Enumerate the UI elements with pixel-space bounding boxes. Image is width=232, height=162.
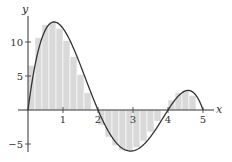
y-axis-label: y — [21, 3, 29, 16]
x-axis-label: x — [216, 103, 223, 116]
riemann-bar — [77, 75, 84, 110]
riemann-bar — [105, 110, 112, 137]
riemann-bar — [70, 57, 77, 110]
x-tick-label: 3 — [130, 114, 136, 125]
riemann-bar — [182, 90, 189, 110]
y-tick-label: −5 — [8, 139, 23, 150]
riemann-bar — [42, 25, 49, 110]
riemann-bar — [119, 110, 126, 150]
riemann-bar — [112, 110, 119, 146]
riemann-bar — [56, 28, 63, 110]
riemann-bar — [189, 95, 196, 110]
y-tick-label: 10 — [10, 37, 23, 48]
x-tick-label: 4 — [165, 114, 171, 125]
riemann-bar — [147, 110, 154, 132]
riemann-sum-chart: 12345105−5 x y — [0, 0, 232, 162]
x-tick-label: 1 — [60, 114, 66, 125]
riemann-bar — [140, 110, 147, 141]
y-tick-label: 5 — [17, 71, 23, 82]
chart-container: 12345105−5 x y — [0, 0, 232, 162]
riemann-bar — [63, 41, 70, 110]
x-tick-label: 5 — [200, 114, 206, 125]
riemann-bars — [28, 22, 196, 151]
riemann-bar — [49, 22, 56, 110]
riemann-bar — [154, 110, 161, 121]
riemann-bar — [84, 93, 91, 110]
